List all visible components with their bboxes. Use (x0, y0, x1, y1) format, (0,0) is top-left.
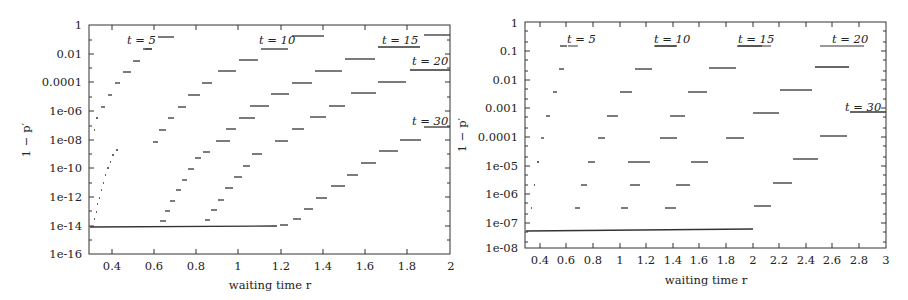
left-xtick-4: 1.2 (272, 259, 290, 273)
right-x-axis-label: waiting time r (665, 273, 748, 287)
right-annot-t5: t = 5 (567, 32, 596, 46)
right-ytick-8: 1e-08 (485, 241, 518, 255)
left-xtick-3: 1 (234, 259, 241, 273)
right-series-t30 (754, 112, 886, 206)
left-ytick-4: 1e-08 (49, 133, 82, 147)
right-annot-t15: t = 15 (738, 32, 774, 46)
right-annot-t30: t = 30 (845, 100, 881, 114)
left-xtick-7: 1.8 (398, 259, 416, 273)
right-xtick-9: 2.2 (770, 253, 788, 267)
right-series-t5 (531, 46, 567, 208)
right-xtick-8: 2 (749, 253, 756, 267)
right-xtick-10: 2.4 (797, 253, 815, 267)
right-annotations: t = 5 t = 10 t = 15 t = 20 t = 30 (567, 32, 881, 114)
right-xtick-2: 0.8 (584, 253, 602, 267)
right-series-t15 (621, 46, 762, 208)
left-y-ticks: 1 0.01 0.0001 1e-06 1e-08 1e-10 1e-12 1e… (42, 18, 82, 261)
left-x-axis-label: waiting time r (229, 278, 312, 292)
right-xtick-6: 1.6 (690, 253, 708, 267)
left-annot-t20: t = 20 (412, 54, 448, 68)
right-ytick-6: 1e-06 (485, 187, 518, 201)
right-plot-frame (525, 22, 886, 248)
right-series-t10 (575, 46, 677, 208)
right-ytick-0: 1 (511, 16, 518, 30)
left-y-axis-label: 1 − p′ (19, 123, 33, 158)
right-xtick-13: 3 (882, 253, 889, 267)
left-xtick-2: 0.8 (187, 259, 205, 273)
right-xtick-11: 2.6 (823, 253, 841, 267)
left-plot-frame (89, 25, 450, 254)
left-annot-t15: t = 15 (382, 33, 418, 47)
left-ytick-8: 1e-16 (49, 247, 82, 261)
right-ytick-1: 0.1 (500, 44, 518, 58)
left-ytick-1: 0.01 (56, 47, 82, 61)
right-y-ticks: 1 0.1 0.01 0.001 0.0001 1e-05 1e-06 1e-0… (478, 16, 518, 255)
left-xtick-6: 1.6 (356, 259, 374, 273)
right-y-axis-label: 1 − p′ (455, 118, 469, 153)
left-annot-t30: t = 30 (412, 114, 448, 128)
left-series-t5 (94, 37, 174, 219)
left-x-ticks: 0.4 0.6 0.8 1 1.2 1.4 1.6 1.8 2 (103, 259, 455, 273)
right-series-t20 (628, 67, 849, 162)
right-xtick-0: 0.4 (531, 253, 549, 267)
right-xtick-1: 0.6 (557, 253, 575, 267)
left-ytick-7: 1e-14 (49, 219, 82, 233)
left-plot: 1 0.01 0.0001 1e-06 1e-08 1e-10 1e-12 1e… (19, 18, 455, 292)
right-xtick-3: 1 (616, 253, 623, 267)
left-y-tickmarks (89, 40, 450, 240)
left-ytick-0: 1 (75, 18, 82, 32)
right-xtick-4: 1.2 (637, 253, 655, 267)
right-x-tickmarks (540, 22, 859, 248)
right-annot-t20: t = 20 (832, 32, 868, 46)
left-ytick-5: 1e-10 (49, 161, 82, 175)
left-xtick-5: 1.4 (314, 259, 332, 273)
right-ytick-4: 0.0001 (478, 130, 518, 144)
left-baseline-segment (90, 226, 277, 227)
left-ytick-2: 0.0001 (42, 75, 82, 89)
left-series-t30 (280, 127, 450, 225)
left-annot-t10: t = 10 (259, 33, 295, 47)
figure: 1 0.01 0.0001 1e-06 1e-08 1e-10 1e-12 1e… (0, 0, 908, 300)
right-ytick-5: 1e-05 (485, 159, 518, 173)
left-series-t20 (275, 70, 450, 141)
left-xtick-0: 0.4 (103, 259, 121, 273)
left-ytick-3: 1e-06 (49, 104, 82, 118)
left-xtick-1: 0.6 (145, 259, 163, 273)
left-xtick-8: 2 (447, 259, 454, 273)
right-xtick-7: 1.8 (717, 253, 735, 267)
right-ytick-3: 0.001 (485, 101, 518, 115)
right-baseline-segment (526, 229, 753, 231)
right-xtick-12: 2.8 (850, 253, 868, 267)
right-ytick-7: 1e-07 (485, 216, 518, 230)
right-plot: 1 0.1 0.01 0.001 0.0001 1e-05 1e-06 1e-0… (455, 16, 890, 287)
left-annot-t5: t = 5 (127, 33, 156, 47)
right-ytick-2: 0.01 (492, 73, 518, 87)
right-annot-t10: t = 10 (654, 32, 690, 46)
right-x-ticks: 0.4 0.6 0.8 1 1.2 1.4 1.6 1.8 2 2.2 2.4 … (531, 253, 890, 267)
right-xtick-5: 1.4 (664, 253, 682, 267)
left-ytick-6: 1e-12 (49, 190, 82, 204)
